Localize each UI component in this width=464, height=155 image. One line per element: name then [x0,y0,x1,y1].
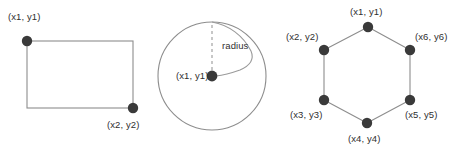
hexagon-label-vertex2: (x2, y2) [286,32,318,42]
hexagon-vertex-dot-3 [319,95,329,105]
hexagon-outline [324,27,410,123]
hexagon-vertex-dot-6 [405,45,415,55]
rectangle-label-point1: (x1, y1) [8,12,40,22]
hexagon-vertex-dot-4 [362,118,372,128]
rectangle-label-point2: (x2, y2) [107,120,139,130]
hexagon-label-vertex5: (x5, y5) [405,110,437,120]
rectangle-corner-dot-top-left [22,36,32,46]
circle-label-center: (x1, y1) [176,71,208,81]
hexagon-label-vertex1: (x1, y1) [350,7,382,17]
rectangle-panel [22,36,138,113]
rectangle-corner-dot-bottom-right [128,103,138,113]
hexagon-label-vertex3: (x3, y3) [290,110,322,120]
hexagon-panel [319,22,415,128]
hexagon-label-vertex4: (x4, y4) [348,134,380,144]
diagram-canvas: (x1, y1) (x2, y2) (x1, y1) radius (x1, y… [0,0,464,155]
circle-panel [158,22,266,130]
circle-label-radius: radius [222,41,248,51]
rectangle-outline [27,41,133,108]
hexagon-label-vertex6: (x6, y6) [415,32,447,42]
hexagon-vertex-dot-1 [363,22,373,32]
hexagon-vertex-dot-2 [319,45,329,55]
hexagon-vertex-dot-5 [405,95,415,105]
geometry-figure [0,0,464,155]
